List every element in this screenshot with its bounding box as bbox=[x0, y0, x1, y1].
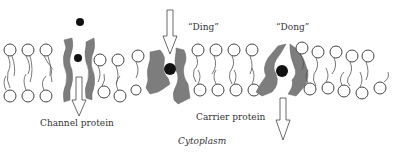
carrier-protein-ding bbox=[146, 10, 190, 104]
lipid-bilayer-left bbox=[4, 44, 52, 102]
lipid-bilayer-mid-left bbox=[94, 50, 144, 102]
channel-protein bbox=[63, 18, 94, 116]
channel-protein-label: Channel protein bbox=[40, 118, 114, 128]
lipid-bilayer-right bbox=[296, 42, 389, 99]
ion-in-channel bbox=[74, 54, 82, 62]
ion-ding bbox=[164, 63, 176, 75]
carrier-protein-label: Carrier protein bbox=[196, 112, 265, 122]
lipid-bilayer-mid-right bbox=[192, 44, 260, 96]
channel-arrow-down bbox=[72, 77, 86, 116]
carrier-protein-dong bbox=[256, 44, 308, 140]
ion-dong bbox=[276, 65, 288, 77]
dong-arrow-down bbox=[276, 98, 290, 140]
ion-outside bbox=[76, 18, 84, 26]
cytoplasm-label: Cytoplasm bbox=[178, 136, 226, 146]
dong-label: “Dong” bbox=[276, 22, 309, 32]
ding-label: “Ding” bbox=[188, 22, 219, 32]
ding-arrow-down bbox=[163, 10, 177, 54]
